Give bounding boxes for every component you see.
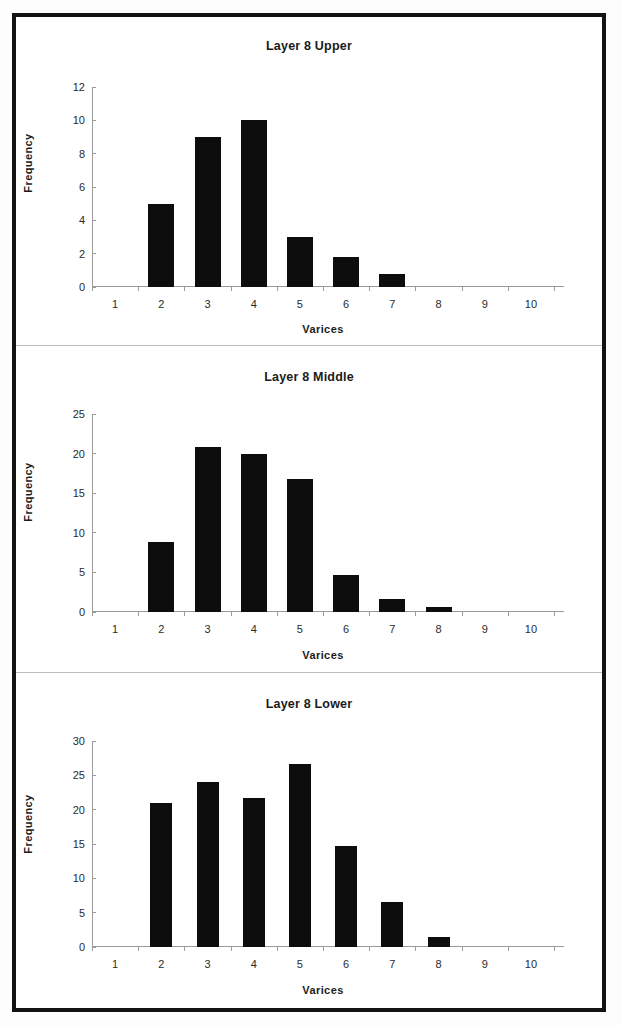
bar (287, 237, 313, 287)
x-axis-tick-mark (184, 612, 185, 616)
x-tick-label: 4 (251, 623, 257, 635)
x-axis-tick-mark (138, 612, 139, 616)
bar (426, 607, 452, 612)
x-tick-label: 9 (482, 298, 488, 310)
plot-area: 051015202512345678910 (92, 414, 554, 612)
x-tick-label: 4 (251, 298, 257, 310)
x-axis-tick-mark (138, 947, 139, 951)
x-axis-tick-mark (323, 287, 324, 291)
x-axis-tick-mark (138, 287, 139, 291)
y-tick-label: 15 (73, 485, 85, 501)
x-tick-label: 8 (435, 958, 441, 970)
y-tick-label: 10 (73, 525, 85, 541)
x-tick-label: 1 (112, 958, 118, 970)
y-tick-mark (92, 153, 96, 154)
x-tick-label: 10 (525, 958, 537, 970)
y-tick-label: 25 (73, 406, 85, 422)
x-axis-tick-mark (554, 287, 555, 291)
y-tick-mark (92, 844, 96, 845)
y-axis-title: Frequency (22, 123, 34, 203)
bar (148, 204, 174, 287)
y-tick-label: 10 (73, 870, 85, 886)
bar (195, 447, 221, 612)
x-tick-label: 5 (297, 623, 303, 635)
y-tick-label: 30 (73, 733, 85, 749)
bar (195, 137, 221, 287)
bar (148, 542, 174, 612)
x-axis-tick-mark (462, 612, 463, 616)
x-axis-tick-mark (231, 612, 232, 616)
chart-panel-layer-8-lower: Layer 8 Lower Frequency 0510152025301234… (16, 672, 602, 1008)
bar (333, 575, 359, 612)
y-tick-label: 0 (79, 939, 85, 955)
x-tick-label: 3 (204, 623, 210, 635)
x-axis-tick-mark (184, 947, 185, 951)
x-axis-title: Varices (92, 649, 554, 661)
x-axis-tick-mark (323, 612, 324, 616)
chart-panel-layer-8-middle: Layer 8 Middle Frequency 051015202512345… (16, 345, 602, 672)
x-tick-label: 5 (297, 298, 303, 310)
x-axis-title: Varices (92, 984, 554, 996)
x-tick-label: 9 (482, 958, 488, 970)
bar (197, 782, 219, 947)
x-tick-label: 7 (389, 623, 395, 635)
y-tick-label: 12 (73, 79, 85, 95)
x-tick-label: 2 (158, 623, 164, 635)
figure-frame: Layer 8 Upper Frequency 0246810121234567… (12, 13, 606, 1012)
figure-page: Layer 8 Upper Frequency 0246810121234567… (0, 0, 622, 1026)
bar (241, 454, 267, 612)
x-axis-tick-mark (554, 612, 555, 616)
x-axis-tick-mark (462, 947, 463, 951)
y-tick-label: 5 (79, 564, 85, 580)
y-tick-label: 4 (79, 212, 85, 228)
bar (428, 937, 450, 947)
x-tick-label: 7 (389, 958, 395, 970)
bar (287, 479, 313, 612)
x-tick-label: 10 (525, 298, 537, 310)
y-axis-line (92, 414, 93, 612)
x-axis-tick-mark (415, 287, 416, 291)
chart-title: Layer 8 Upper (16, 39, 602, 53)
x-axis-tick-mark (369, 612, 370, 616)
y-tick-label: 8 (79, 146, 85, 162)
x-axis-tick-mark (508, 947, 509, 951)
x-tick-label: 3 (204, 298, 210, 310)
y-tick-label: 5 (79, 905, 85, 921)
x-axis-tick-mark (323, 947, 324, 951)
x-tick-label: 4 (251, 958, 257, 970)
chart-panel-layer-8-upper: Layer 8 Upper Frequency 0246810121234567… (16, 17, 602, 345)
x-axis-tick-mark (92, 287, 93, 291)
x-tick-label: 10 (525, 623, 537, 635)
x-axis-title: Varices (92, 323, 554, 335)
x-axis-tick-mark (184, 287, 185, 291)
y-tick-label: 25 (73, 767, 85, 783)
y-tick-label: 20 (73, 446, 85, 462)
y-tick-mark (92, 912, 96, 913)
bar (243, 798, 265, 947)
y-tick-label: 0 (79, 279, 85, 295)
bar (289, 764, 311, 947)
y-tick-label: 15 (73, 836, 85, 852)
chart-title: Layer 8 Lower (16, 697, 602, 711)
bar (379, 599, 405, 612)
x-tick-label: 1 (112, 623, 118, 635)
x-tick-label: 7 (389, 298, 395, 310)
y-tick-mark (92, 120, 96, 121)
y-tick-mark (92, 414, 96, 415)
y-tick-label: 2 (79, 246, 85, 262)
x-axis-tick-mark (508, 287, 509, 291)
x-axis-tick-mark (415, 947, 416, 951)
x-tick-label: 6 (343, 958, 349, 970)
bar (379, 274, 405, 287)
x-tick-label: 5 (297, 958, 303, 970)
bar (241, 120, 267, 287)
y-tick-mark (92, 87, 96, 88)
y-tick-label: 10 (73, 112, 85, 128)
x-tick-label: 9 (482, 623, 488, 635)
y-tick-mark (92, 741, 96, 742)
x-tick-label: 8 (435, 623, 441, 635)
bar (335, 846, 357, 947)
x-axis-tick-mark (92, 947, 93, 951)
x-axis-tick-mark (277, 947, 278, 951)
y-tick-mark (92, 878, 96, 879)
